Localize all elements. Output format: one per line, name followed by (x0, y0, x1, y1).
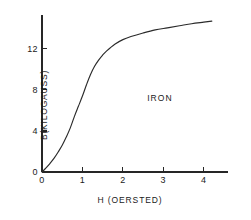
x-tick-label: 1 (80, 176, 85, 185)
annotation-iron: IRON (147, 93, 173, 103)
y-tick-label: 4 (26, 126, 38, 135)
x-tick-label: 2 (120, 176, 125, 185)
plot-canvas (0, 0, 251, 220)
y-tick-label: 12 (26, 44, 38, 53)
x-tick-label: 4 (201, 176, 206, 185)
y-tick-label: 0 (26, 168, 38, 177)
magnetization-curve-figure: 01234 04812 IRON H (OERSTED) B(KILOGAUSS… (0, 0, 251, 220)
x-tick-label: 3 (161, 176, 166, 185)
y-axis-title: B(KILOGAUSS) (39, 70, 49, 140)
y-tick-label: 8 (26, 85, 38, 94)
axes-group (42, 15, 228, 172)
x-tick-marks (42, 167, 204, 172)
data-series-group (42, 21, 212, 172)
x-axis-title: H (OERSTED) (97, 195, 162, 205)
series-line-iron (42, 21, 212, 172)
x-tick-label: 0 (39, 176, 44, 185)
